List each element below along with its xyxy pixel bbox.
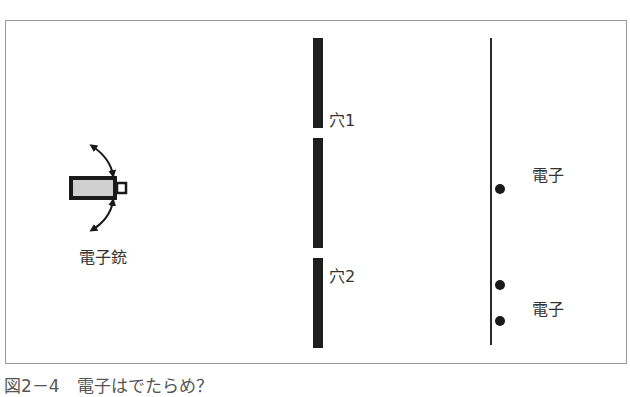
electron-label-upper: 電子 — [532, 162, 564, 186]
electron-gun-label: 電子銃 — [79, 244, 127, 268]
slit-2-label: 穴2 — [329, 263, 355, 287]
electron-gun-icon — [71, 178, 126, 198]
slit-barrier — [313, 38, 323, 348]
electron-dot — [495, 280, 505, 290]
slit-1-label: 穴1 — [329, 107, 355, 131]
electron-label-lower: 電子 — [532, 296, 564, 320]
figure-caption: 図2－4 電子はでたらめ？ — [4, 372, 213, 397]
electron-dot — [495, 316, 505, 326]
electron-dot — [495, 184, 505, 194]
